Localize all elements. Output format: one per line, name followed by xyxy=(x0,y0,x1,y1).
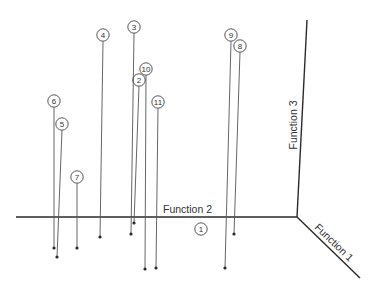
data-point-2: 2 xyxy=(132,74,145,225)
base-dot xyxy=(132,221,135,224)
point-label: 5 xyxy=(60,120,65,129)
point-label: 4 xyxy=(101,31,106,40)
base-dot xyxy=(98,235,101,238)
stem-line xyxy=(145,75,146,269)
data-point-5: 5 xyxy=(55,118,68,259)
plot-area: Function 2 Function 3 Function 1 1234567… xyxy=(0,0,378,293)
data-point-7: 7 xyxy=(71,171,83,250)
base-dot xyxy=(129,232,132,235)
base-dot xyxy=(154,266,157,269)
point-label: 10 xyxy=(142,65,151,74)
function-2-axis-label: Function 2 xyxy=(163,203,212,215)
stem-line xyxy=(131,33,134,234)
base-dot xyxy=(75,246,78,249)
stem-line xyxy=(234,52,240,234)
stem-line xyxy=(134,86,139,223)
base-dot xyxy=(232,232,235,235)
data-point-4: 4 xyxy=(97,29,109,239)
stem-line xyxy=(156,108,158,268)
data-point-3: 3 xyxy=(128,21,140,236)
base-dot xyxy=(223,266,226,269)
point-label: 1 xyxy=(199,225,204,234)
point-label: 9 xyxy=(229,31,234,40)
point-label: 2 xyxy=(137,76,142,85)
3d-scatter-chart: Function 2 Function 3 Function 1 1234567… xyxy=(0,0,378,293)
data-point-8: 8 xyxy=(232,40,246,236)
point-label: 7 xyxy=(75,173,80,182)
data-point-1: 1 xyxy=(195,223,207,235)
base-dot xyxy=(143,267,146,270)
base-dot xyxy=(55,255,58,258)
stem-line xyxy=(225,41,231,268)
data-point-10: 10 xyxy=(140,63,152,271)
point-label: 6 xyxy=(52,97,57,106)
point-label: 3 xyxy=(132,23,137,32)
point-label: 8 xyxy=(238,42,243,51)
stem-line xyxy=(57,130,62,257)
point-label: 11 xyxy=(154,98,163,107)
data-points: 1234567891011 xyxy=(48,21,246,271)
data-point-11: 11 xyxy=(152,96,164,270)
stem-line xyxy=(100,41,103,237)
base-dot xyxy=(52,246,55,249)
function-1-axis-label: Function 1 xyxy=(313,221,357,264)
function-1-axis xyxy=(297,217,360,278)
function-3-axis-label: Function 3 xyxy=(287,100,299,149)
